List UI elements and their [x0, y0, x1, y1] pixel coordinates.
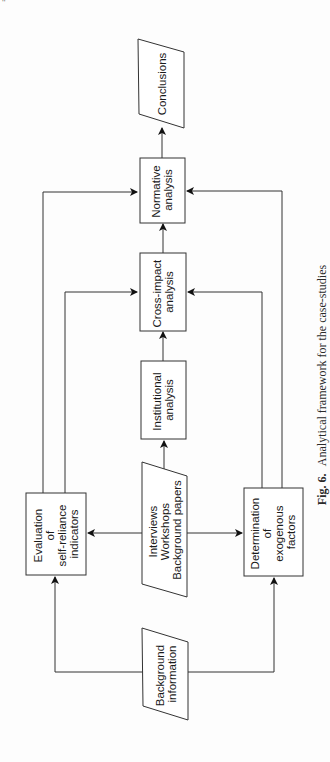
flow-diagram: '' Conclusions Normative analysis: [0, 0, 330, 762]
conclusions-label: Conclusions: [156, 52, 168, 115]
edge-determination-to-normative: [187, 191, 282, 488]
node-evaluation-self-reliance: Evaluation of self-reliance indicators: [26, 493, 86, 575]
evaluation-label: Evaluation of self-reliance indicators: [32, 501, 80, 566]
edge-background-to-determination: [188, 578, 274, 672]
edge-background-to-evaluation: [55, 577, 143, 672]
edge-evaluation-to-normative: [43, 192, 137, 493]
caption-text: Analytical framework for the case-studie…: [315, 265, 329, 467]
node-cross-impact-analysis: Cross-impact analysis: [140, 253, 186, 331]
edge-determination-to-crossimpact: [188, 292, 262, 488]
background-label: Background information: [154, 642, 178, 707]
normative-label: Normative analysis: [150, 162, 174, 218]
figure-caption: Fig. 6. Analytical framework for the cas…: [315, 265, 329, 506]
edge-evaluation-to-crossimpact: [65, 292, 137, 493]
node-interviews-workshops: Interviews Workshops Background papers: [142, 462, 187, 597]
node-background-information: Background information: [142, 628, 188, 720]
caption-label: Fig. 6.: [315, 473, 329, 505]
node-conclusions: Conclusions: [138, 39, 184, 128]
node-determination-exogenous: Determination of exogenous factors: [244, 488, 303, 576]
node-institutional-analysis: Institutional analysis: [141, 361, 186, 439]
document-page: '' Conclusions Normative analysis: [0, 0, 330, 762]
node-normative-analysis: Normative analysis: [140, 158, 185, 223]
page-number-fragment: '': [2, 0, 6, 8]
